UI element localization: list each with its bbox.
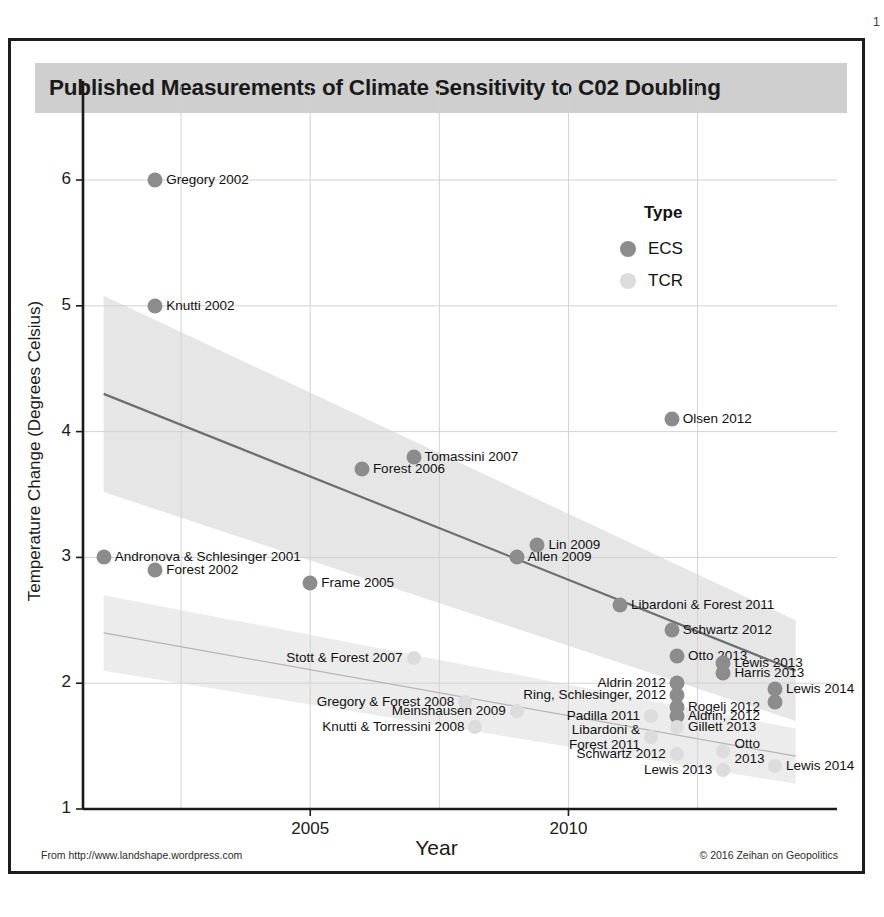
data-point[interactable] xyxy=(644,730,658,744)
data-point-label: Frame 2005 xyxy=(321,575,394,590)
data-point-label: Lewis 2014 xyxy=(786,682,854,697)
data-point-label: Gillett 2013 xyxy=(688,720,756,735)
data-point[interactable] xyxy=(468,720,482,734)
data-point[interactable] xyxy=(669,648,684,663)
legend-item-ecs[interactable]: ECS xyxy=(616,233,683,265)
y-tick-label: 3 xyxy=(41,546,71,566)
x-tick-label: 2010 xyxy=(533,819,603,839)
legend-item-label: ECS xyxy=(648,239,683,259)
data-point[interactable] xyxy=(407,651,421,665)
data-point[interactable] xyxy=(670,747,684,761)
data-point-label: Knutti & Torressini 2008 xyxy=(322,720,464,735)
data-point[interactable] xyxy=(670,720,684,734)
data-point-label: Schwartz 2012 xyxy=(577,746,666,761)
data-point[interactable] xyxy=(148,562,163,577)
y-tick-label: 6 xyxy=(41,169,71,189)
figure-frame: Published Measurements of Climate Sensit… xyxy=(8,38,865,874)
legend-items: ECSTCR xyxy=(616,233,683,297)
data-point-label: Harris 2013 xyxy=(734,666,804,681)
data-point[interactable] xyxy=(509,550,524,565)
data-point[interactable] xyxy=(96,550,111,565)
data-point-label: Forest 2002 xyxy=(166,563,238,578)
data-point-label: Forest 2006 xyxy=(373,462,445,477)
legend-marker-icon xyxy=(620,241,636,257)
y-tick-label: 5 xyxy=(41,295,71,315)
y-tick-label: 4 xyxy=(41,421,71,441)
data-point-label: Otto 2013 xyxy=(734,737,764,766)
legend-marker-icon xyxy=(620,273,636,289)
data-point-label: Meinshausen 2009 xyxy=(392,704,506,719)
legend-title: Type xyxy=(644,203,683,223)
data-point[interactable] xyxy=(613,598,628,613)
y-tick-label: 1 xyxy=(41,798,71,818)
data-point[interactable] xyxy=(664,412,679,427)
page-number: 1 xyxy=(873,14,880,29)
data-point-label: Libardoni & Forest 2011 xyxy=(631,598,774,613)
data-point-label: Ring, Schlesinger, 2012 xyxy=(523,687,666,702)
x-tick-label: 2005 xyxy=(275,819,345,839)
data-point-label: Stott & Forest 2007 xyxy=(286,651,402,666)
data-point[interactable] xyxy=(664,623,679,638)
data-point-label: Allen 2009 xyxy=(528,550,592,565)
data-point[interactable] xyxy=(716,763,730,777)
data-point[interactable] xyxy=(716,666,731,681)
data-point-label: Gregory 2002 xyxy=(166,173,249,188)
data-point-label: Schwartz 2012 xyxy=(683,623,772,638)
data-point[interactable] xyxy=(303,575,318,590)
plot-area: Temperature Change (Degrees Celsius) Yea… xyxy=(11,41,862,871)
data-point-label: Knutti 2002 xyxy=(166,299,234,314)
legend-item-label: TCR xyxy=(648,271,683,291)
source-credit: From http://www.landshape.wordpress.com xyxy=(41,849,242,861)
data-point[interactable] xyxy=(148,173,163,188)
data-point[interactable] xyxy=(510,704,524,718)
data-point-label: Olsen 2012 xyxy=(683,412,752,427)
data-point[interactable] xyxy=(768,759,782,773)
copyright-notice: © 2016 Zeihan on Geopolitics xyxy=(700,849,839,861)
data-point[interactable] xyxy=(716,744,730,758)
data-point[interactable] xyxy=(768,695,783,710)
data-point-label: Lewis 2013 xyxy=(644,763,712,778)
data-point[interactable] xyxy=(354,462,369,477)
legend: Type ECSTCR xyxy=(616,203,683,297)
data-point-label: Lewis 2014 xyxy=(786,759,854,774)
y-tick-label: 2 xyxy=(41,672,71,692)
data-point[interactable] xyxy=(644,709,658,723)
data-point[interactable] xyxy=(148,298,163,313)
legend-item-tcr[interactable]: TCR xyxy=(616,265,683,297)
